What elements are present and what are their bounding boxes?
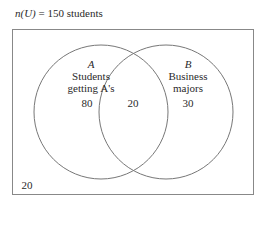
- set-b-circle: [99, 45, 233, 179]
- set-b-desc-line1: Business: [168, 70, 207, 82]
- set-a-label: A Students getting A's: [68, 58, 115, 94]
- outside-value: 20: [22, 179, 33, 191]
- set-a-desc-line2: getting A's: [68, 82, 115, 94]
- set-b-label: B Business majors: [168, 58, 207, 94]
- set-a-desc-line1: Students: [68, 70, 115, 82]
- set-a-only-value: 80: [82, 97, 93, 109]
- set-b-name: B: [168, 58, 207, 70]
- set-b-only-value: 30: [183, 97, 194, 109]
- intersection-value: 20: [128, 97, 139, 109]
- set-b-desc-line2: majors: [168, 82, 207, 94]
- set-a-name: A: [68, 58, 115, 70]
